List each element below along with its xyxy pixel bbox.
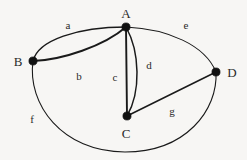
edge-a-path <box>33 27 126 61</box>
edge-label-b: b <box>76 71 82 82</box>
vertex-dot-B <box>29 57 37 65</box>
vertex-label-A: A <box>121 7 130 20</box>
edge-label-g: g <box>169 106 175 117</box>
edge-e-path <box>126 27 216 72</box>
vertex-dot-A <box>122 23 130 31</box>
edge-label-e: e <box>184 20 189 31</box>
vertex-dot-D <box>212 68 220 76</box>
edge-label-f: f <box>30 114 34 125</box>
edge-label-a: a <box>66 20 71 31</box>
edge-c-path <box>126 27 127 116</box>
vertex-label-C: C <box>122 127 131 140</box>
vertex-dot-C <box>123 112 131 120</box>
graph-diagram-figure: A B C D a b c d e f g <box>0 0 247 160</box>
edge-label-d: d <box>146 60 152 71</box>
edge-label-c: c <box>113 72 118 83</box>
vertex-label-B: B <box>14 55 23 68</box>
vertex-label-D: D <box>227 66 236 79</box>
